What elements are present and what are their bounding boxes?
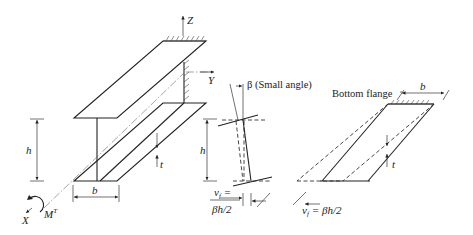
- bottom-flange-title: Bottom flange: [332, 88, 393, 99]
- width-label: b: [92, 184, 98, 196]
- bottom-flange-plan: Bottom flange b t vf= βh/2: [293, 80, 449, 218]
- angle-label: β (Small angle): [247, 79, 312, 91]
- flange-displacement-label: vf= βh/2: [302, 204, 342, 218]
- fixed-support-web: [184, 60, 189, 100]
- section-height-label: h: [200, 144, 206, 156]
- height-label: h: [26, 144, 32, 156]
- bottom-flange: [74, 103, 206, 181]
- height-dimension: [30, 119, 44, 181]
- fixed-support-top: [163, 36, 206, 41]
- i-beam-3d: Z Y h b t X MT: [21, 14, 216, 226]
- torque-label: MT: [43, 207, 58, 220]
- top-flange: [74, 41, 206, 118]
- rotated-cross-section: β (Small angle) h vf= βh/2: [200, 79, 312, 215]
- z-axis-label: Z: [187, 14, 194, 26]
- thickness-label: t: [160, 158, 164, 170]
- section-displacement-value: βh/2: [211, 203, 232, 215]
- i-beam-torsion-diagram: Z Y h b t X MT: [0, 0, 473, 235]
- x-axis-label: X: [21, 214, 30, 226]
- y-axis-label: Y: [208, 74, 216, 86]
- diagram-canvas: Z Y h b t X MT: [0, 0, 473, 235]
- flange-width-label: b: [420, 80, 426, 92]
- flange-thickness-label: t: [392, 158, 396, 170]
